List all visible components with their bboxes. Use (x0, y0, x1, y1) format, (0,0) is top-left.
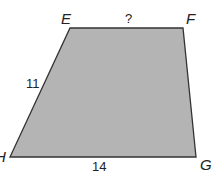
side-ef-label: ? (125, 11, 132, 26)
trapezoid-efgh (10, 28, 196, 157)
trapezoid-diagram: E F G H ? 11 14 (0, 0, 219, 176)
vertex-g-label: G (200, 156, 212, 173)
side-hg-label: 14 (92, 159, 106, 174)
vertex-e-label: E (61, 10, 72, 27)
side-eh-label: 11 (26, 76, 40, 91)
vertex-f-label: F (186, 10, 196, 27)
vertex-h-label: H (0, 148, 6, 165)
